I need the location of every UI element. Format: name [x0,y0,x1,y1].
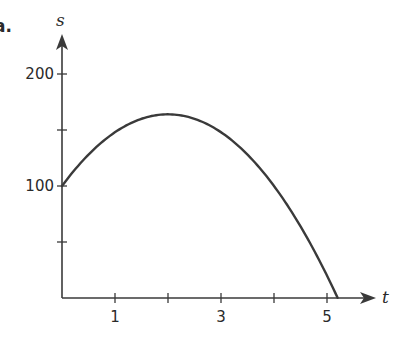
y-tick-label: 200 [25,65,54,83]
chart: ts135100200 [0,0,394,338]
y-tick-label: 100 [25,177,54,195]
x-axis-label: t [382,287,389,307]
x-tick-label: 3 [216,308,226,326]
y-axis-label: s [56,10,65,30]
x-tick-label: 1 [110,308,120,326]
x-tick-label: 5 [322,308,332,326]
series-line-s-of-t [62,114,338,298]
